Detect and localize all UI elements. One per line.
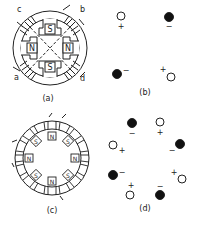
- svg-text:+: +: [118, 22, 125, 31]
- pole-bottom: S: [47, 63, 52, 72]
- svg-text:+: +: [119, 146, 126, 155]
- pole-left: N: [29, 44, 35, 53]
- svg-text:N: N: [27, 155, 32, 162]
- stator-diagrams: S S N N c b a d (a) N S N S N S N S (c): [0, 0, 199, 225]
- svg-text:+: +: [171, 168, 178, 177]
- caption-d: (d): [139, 204, 150, 213]
- svg-text:−: −: [119, 168, 126, 177]
- conductor-open: [167, 73, 175, 81]
- caption-b: (b): [139, 88, 150, 97]
- figure-d-signs: − + − + − + − +: [119, 128, 178, 191]
- pole-top: S: [47, 25, 52, 34]
- svg-text:−: −: [123, 66, 130, 75]
- svg-text:+: +: [160, 65, 167, 74]
- svg-text:S: S: [34, 172, 38, 179]
- svg-text:N: N: [50, 133, 55, 140]
- svg-text:+: +: [157, 128, 164, 137]
- svg-text:−: −: [166, 22, 173, 31]
- winding-label-c: c: [17, 5, 21, 14]
- figure-b-signs: + − − +: [118, 22, 173, 75]
- svg-text:−: −: [157, 182, 164, 191]
- svg-text:S: S: [66, 172, 70, 179]
- svg-text:−: −: [169, 146, 176, 155]
- svg-text:N: N: [73, 155, 78, 162]
- winding-label-b: b: [80, 5, 85, 14]
- svg-text:+: +: [128, 181, 135, 190]
- conductor-open: [117, 12, 125, 20]
- caption-c: (c): [47, 206, 58, 215]
- winding-label-a: a: [14, 73, 19, 82]
- caption-a: (a): [42, 94, 53, 103]
- svg-text:N: N: [50, 178, 55, 185]
- svg-text:S: S: [34, 138, 38, 145]
- figure-a-stator: [13, 5, 87, 85]
- figure-d-conductors: [109, 118, 187, 200]
- pole-right: N: [65, 44, 71, 53]
- svg-text:S: S: [66, 138, 70, 145]
- svg-text:−: −: [129, 129, 136, 138]
- conductor-filled: [113, 70, 122, 79]
- winding-label-d: d: [80, 74, 85, 83]
- conductor-filled: [165, 13, 174, 22]
